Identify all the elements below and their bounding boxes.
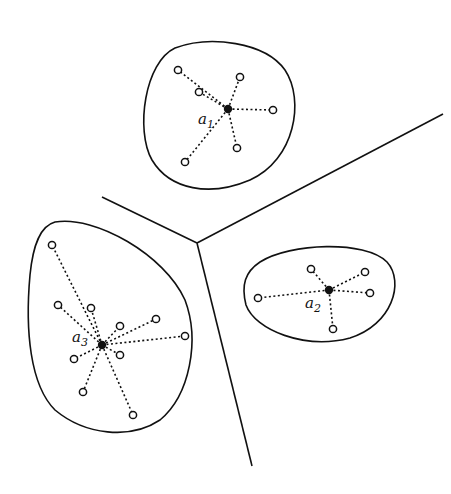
data-point-icon (48, 241, 55, 248)
assignment-edge (329, 290, 370, 293)
assignment-edge (91, 308, 102, 345)
cluster-center-label: a2 (305, 294, 321, 315)
data-point-icon (269, 106, 276, 113)
assignment-edge (102, 319, 156, 345)
cluster-center-icon (98, 341, 106, 349)
cluster-center-icon (325, 286, 333, 294)
data-point-icon (70, 355, 77, 362)
assignment-edge (178, 70, 228, 109)
data-point-icon (329, 325, 336, 332)
data-point-icon (236, 73, 243, 80)
voronoi-cluster-diagram: a1a2a3 (0, 0, 451, 494)
data-point-icon (254, 294, 261, 301)
cluster-outline (144, 42, 295, 189)
assignment-edge (228, 109, 273, 110)
data-point-icon (181, 332, 188, 339)
data-point-icon (129, 411, 136, 418)
data-point-icon (152, 315, 159, 322)
assignment-edge (329, 272, 365, 290)
data-point-icon (174, 66, 181, 73)
assignment-edge (74, 345, 102, 359)
data-point-icon (87, 304, 94, 311)
data-point-icon (54, 301, 61, 308)
cluster-2: a2 (244, 247, 395, 342)
cluster-center-label: a1 (198, 110, 214, 131)
clusters: a1a2a3 (28, 42, 395, 433)
data-point-icon (116, 322, 123, 329)
cluster-outline (28, 221, 192, 432)
assignment-edge (258, 290, 329, 298)
data-point-icon (307, 265, 314, 272)
cluster-1: a1 (144, 42, 295, 189)
cluster-center-label: a3 (72, 328, 88, 349)
assignment-edge (228, 109, 237, 148)
cluster-3: a3 (28, 221, 192, 432)
assignment-edge (83, 345, 102, 392)
assignment-edge (228, 77, 240, 109)
voronoi-boundary-line (197, 243, 252, 466)
data-point-icon (116, 351, 123, 358)
voronoi-boundary-line (197, 114, 443, 243)
assignment-edge (102, 336, 185, 345)
assignment-edge (329, 290, 333, 329)
cluster-center-icon (224, 105, 232, 113)
data-point-icon (195, 88, 202, 95)
data-point-icon (233, 144, 240, 151)
voronoi-boundaries (102, 114, 443, 466)
data-point-icon (361, 268, 368, 275)
assignment-edge (199, 92, 228, 109)
data-point-icon (181, 158, 188, 165)
data-point-icon (79, 388, 86, 395)
data-point-icon (366, 289, 373, 296)
